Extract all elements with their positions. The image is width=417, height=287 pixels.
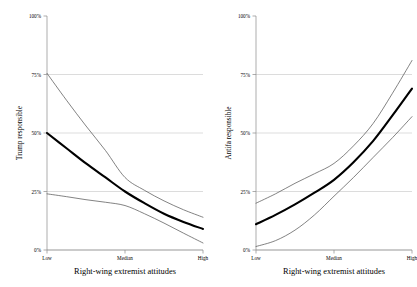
y-tick-label-0: 0% <box>243 247 251 253</box>
curves-left <box>47 73 203 243</box>
panel-antifa-plot-area: 0% 25% 50% 75% 100% Low Median High Righ… <box>209 0 417 287</box>
y-tick-label-25: 25% <box>240 189 250 195</box>
y-tick-label-50: 50% <box>31 130 41 136</box>
ci-upper-curve <box>256 60 412 203</box>
gridlines-right <box>256 75 412 251</box>
x-tick-label-high: High <box>198 255 209 261</box>
panel-antifa-responsible: 0% 25% 50% 75% 100% Low Median High Righ… <box>209 0 417 287</box>
y-tick-label-25: 25% <box>31 189 41 195</box>
y-axis-title: Trump responsible <box>16 106 24 160</box>
y-tick-label-50: 50% <box>240 130 250 136</box>
y-tick-marks <box>252 16 256 250</box>
x-axis-title: Right-wing extremist attitudes <box>283 267 385 276</box>
y-axis-title: Antifa responsible <box>225 107 233 160</box>
y-tick-label-75: 75% <box>31 72 41 78</box>
x-tick-marks <box>47 250 203 254</box>
predicted-probability-curve <box>256 89 412 225</box>
y-tick-label-100: 100% <box>29 13 42 19</box>
gridlines-left <box>47 75 203 251</box>
curves-right <box>256 60 412 246</box>
x-axis-title: Right-wing extremist attitudes <box>74 267 176 276</box>
figure-two-panel-chart: 0% 25% 50% 75% 100% Low Median High Righ… <box>0 0 417 287</box>
x-tick-label-low: Low <box>42 255 52 261</box>
ci-lower-curve <box>47 194 203 243</box>
panel-trump-responsible: 0% 25% 50% 75% 100% Low Median High Righ… <box>0 0 209 287</box>
x-tick-label-low: Low <box>251 255 261 261</box>
ci-lower-curve <box>256 117 412 247</box>
y-tick-label-0: 0% <box>34 247 42 253</box>
x-tick-label-median: Median <box>117 255 133 261</box>
y-tick-label-75: 75% <box>240 72 250 78</box>
panel-trump-plot-area: 0% 25% 50% 75% 100% Low Median High Righ… <box>0 0 209 287</box>
x-tick-marks <box>256 250 412 254</box>
x-tick-label-median: Median <box>326 255 342 261</box>
y-tick-label-100: 100% <box>237 13 250 19</box>
ci-upper-curve <box>47 73 203 217</box>
predicted-probability-curve <box>47 133 203 229</box>
x-tick-label-high: High <box>406 255 417 261</box>
